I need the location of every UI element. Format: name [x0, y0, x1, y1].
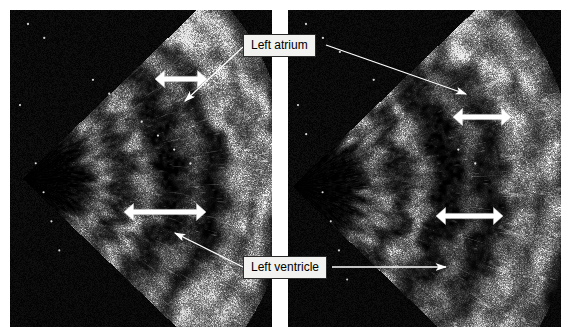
callout-left-atrium: Left atrium: [243, 34, 316, 57]
callout-left-ventricle-label: Left ventricle: [251, 260, 319, 274]
callout-left-atrium-label: Left atrium: [251, 38, 308, 52]
callout-left-ventricle: Left ventricle: [243, 256, 327, 279]
left-echo-panel: [10, 10, 272, 327]
echocardiogram-figure: Left atrium Left ventricle: [0, 0, 571, 336]
right-echo-panel: [288, 10, 561, 327]
right-echo-image: [288, 10, 561, 327]
left-echo-image: [10, 10, 272, 327]
